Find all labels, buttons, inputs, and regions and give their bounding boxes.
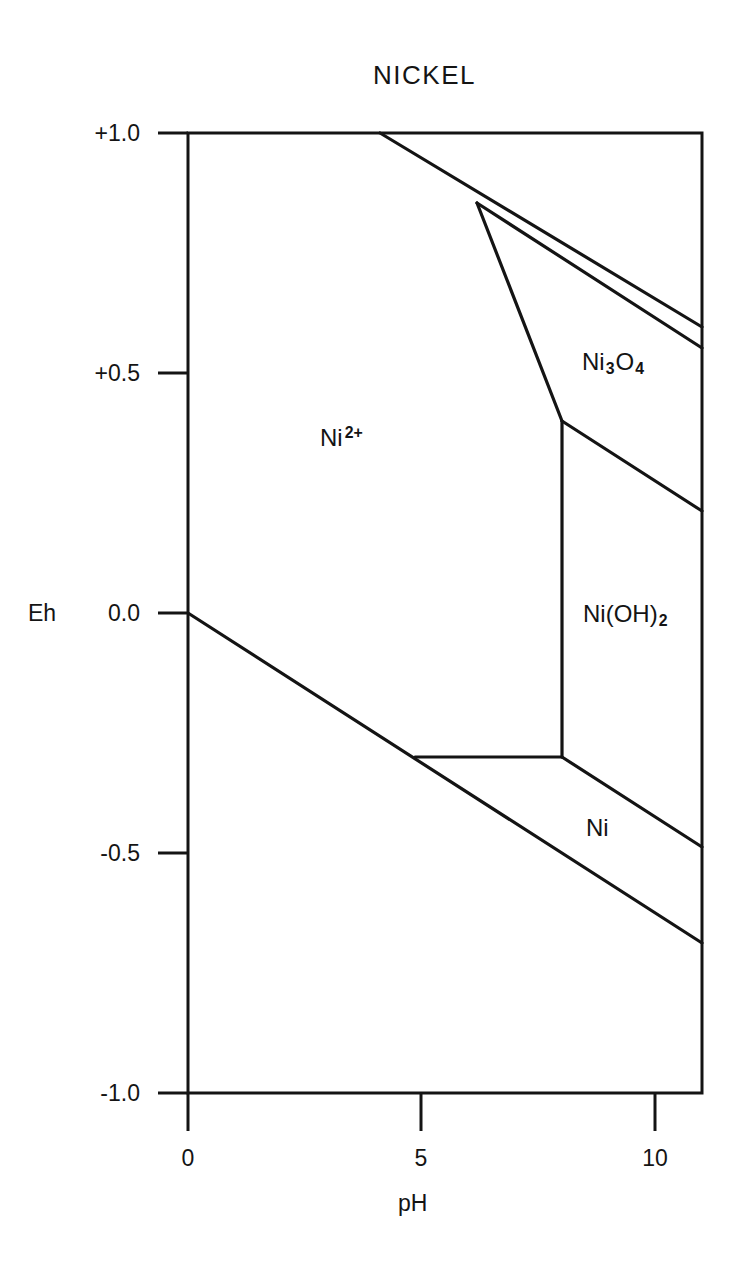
xtick-label-0: 0 (158, 1145, 218, 1172)
x-axis-title: pH (398, 1190, 427, 1217)
boundary-ni3o4-nioh2 (562, 421, 702, 511)
region-label-nickel-oxide-mid: O (615, 348, 634, 375)
boundary-ni3o4-upper (477, 203, 702, 348)
boundary-nioh2-ni (562, 757, 702, 847)
region-label-nickel-ion-charge: 2+ (343, 424, 363, 441)
region-label-nickel-hydroxide-sub: 2 (658, 612, 669, 629)
region-label-nickel-oxide-prefix: Ni (582, 348, 605, 375)
region-label-nickel-ion-formula: Ni (320, 424, 343, 451)
ytick-label-minus-1: -1.0 (30, 1080, 140, 1107)
region-label-nickel-oxide: Ni3O4 (582, 348, 645, 378)
region-label-nickel-hydroxide: Ni(OH)2 (583, 600, 668, 630)
boundary-lower-water-line (188, 613, 702, 943)
region-label-nickel-ion: Ni2+ (320, 424, 363, 452)
ytick-label-minus-0-5: -0.5 (30, 840, 140, 867)
boundary-upper-water-line (380, 133, 702, 327)
region-label-nickel-metal: Ni (586, 814, 609, 842)
pourbaix-diagram-figure: NICKEL (0, 0, 739, 1286)
ytick-label-plus-1: +1.0 (30, 120, 140, 147)
region-label-nickel-oxide-sub1: 3 (605, 360, 616, 377)
y-axis-title: Eh (28, 600, 56, 627)
xtick-label-10: 10 (625, 1145, 685, 1172)
xtick-label-5: 5 (391, 1145, 451, 1172)
region-label-nickel-oxide-sub2: 4 (634, 360, 645, 377)
ytick-label-plus-0-5: +0.5 (30, 360, 140, 387)
region-label-nickel-hydroxide-prefix: Ni(OH) (583, 600, 658, 627)
